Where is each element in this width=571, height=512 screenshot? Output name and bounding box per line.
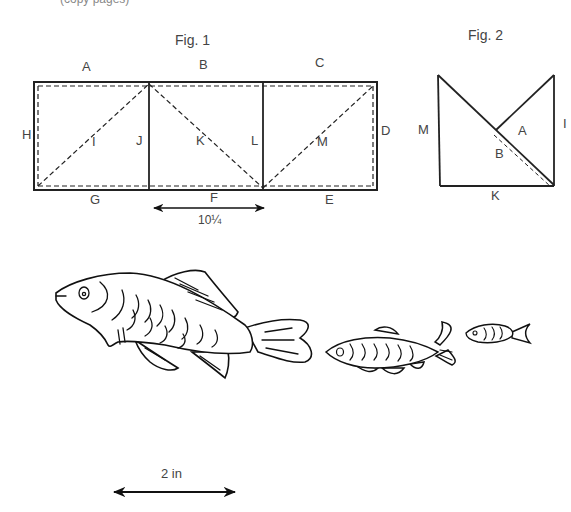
fig1-label-a: A — [82, 60, 91, 73]
fig2-label-a: A — [518, 124, 527, 137]
large-fish-outline — [56, 270, 311, 378]
fig2-title: Fig. 2 — [468, 28, 503, 42]
fig1-label-f: F — [210, 191, 218, 204]
fig1-label-e: E — [325, 193, 334, 206]
fig1-label-c: C — [315, 56, 324, 69]
small-fish-outline — [466, 324, 530, 343]
fig2-label-k: K — [491, 189, 500, 202]
fig1-label-b: B — [199, 58, 208, 71]
fig2-label-m: M — [418, 123, 429, 136]
fig1-label-d: D — [381, 124, 390, 137]
diagram-canvas — [0, 0, 571, 512]
fig1-label-m: M — [317, 135, 328, 148]
fig2-label-i: I — [563, 117, 567, 130]
fig1-label-i: I — [92, 135, 96, 148]
fig1-label-l: L — [251, 134, 258, 147]
scale-bar-label: 2 in — [161, 467, 182, 480]
fig1-label-k: K — [196, 134, 205, 147]
fig2-label-b: B — [495, 147, 504, 160]
fig1-label-j: J — [136, 134, 143, 147]
fig1-label-h: H — [22, 128, 31, 141]
fig2-pattern — [438, 75, 554, 186]
fig1-dimension-label: 10¼ — [198, 214, 221, 226]
medium-fish-outline — [326, 322, 455, 374]
fig1-label-g: G — [90, 193, 100, 206]
